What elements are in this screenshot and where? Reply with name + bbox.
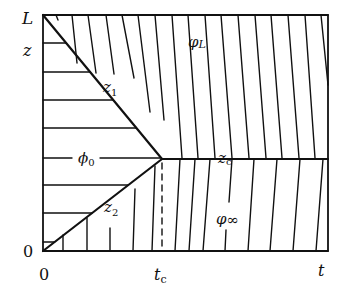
label-zc: zc — [217, 149, 232, 167]
label-z1: z1 — [102, 78, 117, 98]
phi-infinity-isoline — [203, 159, 210, 251]
axis-label-L: L — [21, 8, 33, 28]
phiL-isoline — [205, 15, 215, 158]
phase-diagram: L z z1 ϕ0 z2 zc φL φ∞ 0 0 tc t — [0, 0, 351, 300]
label-phi-infinity: φ∞ — [216, 210, 239, 229]
axis-label-t: t — [318, 261, 325, 280]
phi-infinity-isoline — [133, 189, 135, 251]
phiL-isoline — [155, 15, 164, 120]
phi-infinity-isoline — [189, 159, 195, 251]
phiL-isoline — [72, 15, 77, 63]
phi-infinity-isoline — [316, 159, 323, 251]
phiL-isoline — [106, 15, 114, 74]
phiL-isoline — [221, 15, 232, 158]
phiL-isoline — [255, 15, 266, 158]
phiL-isoline — [172, 15, 182, 158]
phi-infinity-isoline — [225, 230, 226, 251]
label-phi0: ϕ0 — [78, 149, 95, 168]
label-z2: z2 — [103, 198, 118, 218]
label-phiL: φL — [188, 33, 206, 51]
axis-origin-z: 0 — [23, 242, 33, 261]
axis-origin-t: 0 — [39, 265, 49, 284]
phiL-isoline — [122, 15, 134, 78]
axis-label-tc: tc — [154, 265, 167, 286]
phi-infinity-isoline — [248, 159, 254, 251]
phiL-isoline — [271, 15, 282, 158]
phiL-isoline — [138, 15, 150, 112]
phiL-isoline — [238, 15, 249, 158]
phiL-isoline — [321, 15, 328, 85]
phiL-isoline — [305, 15, 315, 158]
phi-infinity-isoline — [152, 166, 155, 251]
axis-label-z: z — [22, 41, 32, 60]
phiL-isoline — [88, 15, 96, 73]
phi-infinity-isoline — [270, 159, 277, 251]
boundary-z2 — [43, 159, 162, 251]
diagram-lines — [43, 15, 328, 251]
phi-infinity-isoline — [175, 159, 180, 251]
phi-infinity-isoline — [293, 159, 300, 251]
phiL-isoline — [288, 15, 299, 158]
